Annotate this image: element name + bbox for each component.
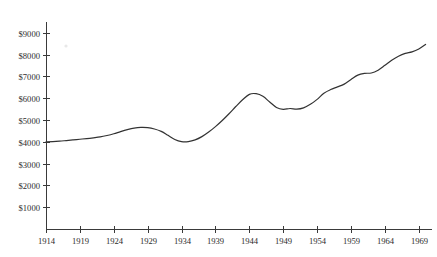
paper-speck [64,44,67,47]
x-axis-tick-label: 1954 [309,236,327,246]
x-axis-tick-label: 1969 [411,236,428,246]
x-axis-tick-label: 1924 [106,236,124,246]
y-axis-tick-label: $8000 [19,51,40,61]
x-axis-tick-label: 1934 [174,236,192,246]
line-chart-figure: $9000$8000$7000$6000$5000$4000$3000$2000… [0,0,437,257]
y-axis-tick-label: $9000 [19,29,40,39]
chart-plot-area: $9000$8000$7000$6000$5000$4000$3000$2000… [0,0,437,257]
x-axis-tick-label: 1914 [38,236,56,246]
x-axis-tick-label: 1964 [377,236,395,246]
y-axis-tick-label: $3000 [19,160,40,170]
y-axis-tick-label: $5000 [19,116,40,126]
y-axis-tick-label: $7000 [19,72,40,82]
y-axis-tick-label: $2000 [19,181,40,191]
x-axis-tick-label: 1939 [207,236,224,246]
x-axis-tick-label: 1959 [343,236,360,246]
x-axis-tick-label: 1929 [140,236,157,246]
y-axis-tick-label: $6000 [19,94,40,104]
x-axis-tick-label: 1944 [241,236,259,246]
chart-background [0,0,437,257]
y-axis-tick-label: $1000 [19,203,40,213]
x-axis-tick-label: 1949 [275,236,292,246]
x-axis-tick-label: 1919 [72,236,89,246]
y-axis-label-group: $9000$8000$7000$6000$5000$4000$3000$2000… [19,29,40,213]
y-axis-tick-label: $4000 [19,138,40,148]
